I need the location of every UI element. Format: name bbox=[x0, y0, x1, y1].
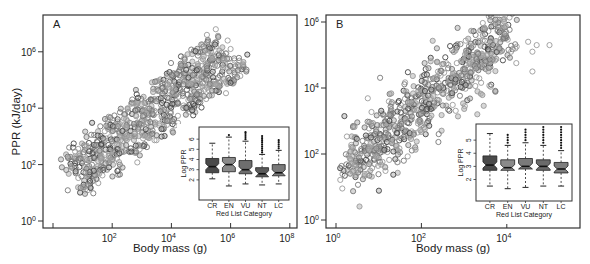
flier-point bbox=[560, 147, 562, 149]
data-point bbox=[374, 129, 379, 134]
data-point bbox=[143, 127, 148, 132]
panel-label: B bbox=[336, 18, 343, 30]
data-point bbox=[474, 57, 479, 62]
data-point bbox=[98, 124, 103, 129]
data-point bbox=[507, 55, 512, 60]
data-point bbox=[131, 121, 136, 126]
data-point bbox=[124, 143, 129, 148]
data-point bbox=[188, 96, 193, 101]
data-point bbox=[83, 129, 88, 134]
x-tick-label: 106 bbox=[220, 232, 235, 244]
flier-point bbox=[560, 126, 562, 128]
data-point bbox=[429, 87, 434, 92]
data-point bbox=[436, 85, 441, 90]
data-point bbox=[481, 103, 486, 108]
data-point bbox=[403, 117, 408, 122]
flier-point bbox=[261, 135, 263, 137]
data-point bbox=[378, 75, 383, 80]
data-point bbox=[241, 62, 246, 67]
data-point bbox=[493, 88, 498, 93]
data-point bbox=[86, 182, 91, 187]
data-point bbox=[124, 133, 129, 138]
inset-x-tick-label: NT bbox=[539, 203, 549, 210]
data-point bbox=[493, 38, 498, 43]
data-point bbox=[120, 128, 125, 133]
data-point bbox=[67, 145, 72, 150]
data-point bbox=[97, 148, 102, 153]
data-point bbox=[193, 49, 198, 54]
y-tick-label: 106 bbox=[21, 46, 36, 58]
data-point bbox=[140, 114, 145, 119]
data-point bbox=[221, 58, 226, 63]
data-point bbox=[64, 167, 69, 172]
data-point bbox=[357, 204, 362, 209]
data-point bbox=[487, 9, 492, 14]
data-point bbox=[471, 43, 476, 48]
y-tick-label: 104 bbox=[304, 82, 319, 94]
data-point bbox=[443, 55, 448, 60]
data-point bbox=[363, 133, 368, 138]
data-point bbox=[422, 61, 427, 66]
data-point bbox=[83, 170, 88, 175]
data-point bbox=[411, 91, 416, 96]
flier-point bbox=[542, 129, 544, 131]
data-point bbox=[245, 52, 250, 57]
flier-point bbox=[261, 141, 263, 143]
inset-y-tick-label: 4 bbox=[465, 151, 472, 155]
outlier-point bbox=[213, 27, 218, 32]
data-point bbox=[183, 112, 188, 117]
box-body bbox=[519, 159, 533, 170]
data-point bbox=[487, 39, 492, 44]
flier-point bbox=[261, 143, 263, 145]
y-tick-label: 100 bbox=[304, 214, 319, 226]
data-point bbox=[362, 143, 367, 148]
data-point bbox=[393, 124, 398, 129]
data-point bbox=[360, 177, 365, 182]
box-body bbox=[239, 161, 252, 174]
data-point bbox=[379, 108, 384, 113]
x-tick-label: 100 bbox=[325, 232, 340, 244]
data-point bbox=[125, 106, 130, 111]
inset-y-tick-label: 4 bbox=[188, 157, 195, 161]
data-point bbox=[416, 88, 421, 93]
flier-point bbox=[560, 131, 562, 133]
data-point bbox=[338, 177, 343, 182]
data-point bbox=[211, 75, 216, 80]
data-point bbox=[473, 83, 478, 88]
data-point bbox=[391, 149, 396, 154]
data-point bbox=[458, 59, 463, 64]
flier-point bbox=[261, 145, 263, 147]
data-point bbox=[235, 68, 240, 73]
data-point bbox=[90, 120, 95, 125]
data-point bbox=[349, 161, 354, 166]
data-point bbox=[507, 15, 512, 20]
data-point bbox=[514, 61, 519, 66]
data-point bbox=[170, 119, 175, 124]
data-point bbox=[431, 93, 436, 98]
data-point bbox=[110, 174, 115, 179]
data-point bbox=[199, 105, 204, 110]
data-point bbox=[436, 132, 441, 137]
inset-x-tick-label: LC bbox=[274, 202, 283, 209]
inset-y-tick-label: 2 bbox=[465, 177, 472, 181]
data-point bbox=[110, 128, 115, 133]
data-point bbox=[450, 102, 455, 107]
inset-x-tick-label: EN bbox=[224, 202, 234, 209]
data-point bbox=[407, 100, 412, 105]
data-point bbox=[365, 96, 370, 101]
data-point bbox=[436, 139, 441, 144]
data-point bbox=[455, 114, 460, 119]
flier-point bbox=[507, 136, 509, 138]
inset-x-tick-label: NT bbox=[257, 202, 267, 209]
data-point bbox=[434, 46, 439, 51]
data-point bbox=[514, 17, 519, 22]
data-point bbox=[84, 143, 89, 148]
panel-a-scatter: A102104106108100102104106Body mass (g)PP… bbox=[10, 15, 297, 254]
outlier-point bbox=[228, 46, 233, 51]
inset-y-tick-label: 3 bbox=[465, 164, 472, 168]
data-point bbox=[362, 171, 367, 176]
data-point bbox=[109, 139, 114, 144]
y-axis-label: PPR (kJ/day) bbox=[10, 87, 22, 155]
flier-point bbox=[560, 142, 562, 144]
box-body bbox=[536, 160, 550, 171]
